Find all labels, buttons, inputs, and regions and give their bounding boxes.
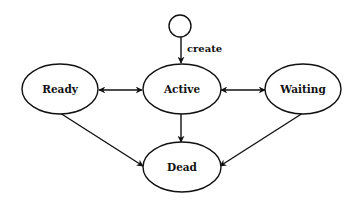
node-start[interactable] [169,15,191,37]
state-diagram: create Ready Active Waiting Dead [0,0,358,202]
active-label: Active [163,83,200,95]
edge-ready-to-dead [60,113,143,166]
edge-waiting-to-dead [220,113,303,166]
ready-label: Ready [42,83,79,95]
waiting-label: Waiting [279,83,326,95]
node-dead[interactable]: Dead [143,142,221,192]
edge-label-create: create [187,43,222,54]
node-waiting[interactable]: Waiting [265,64,341,114]
dead-label: Dead [167,161,198,173]
node-active[interactable]: Active [143,64,221,114]
node-ready[interactable]: Ready [22,64,98,114]
initial-state-circle [169,15,191,37]
